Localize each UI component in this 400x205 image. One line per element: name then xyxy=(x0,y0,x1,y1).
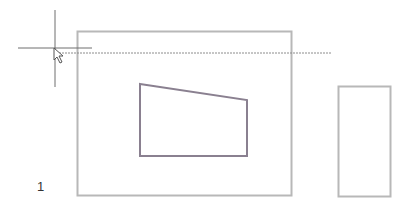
inner-quadrilateral[interactable] xyxy=(140,84,247,156)
viewport-number-label: 1 xyxy=(37,180,44,193)
side-rectangle[interactable] xyxy=(339,87,391,197)
drawing-canvas[interactable] xyxy=(0,0,400,205)
outer-rectangle[interactable] xyxy=(78,32,292,196)
